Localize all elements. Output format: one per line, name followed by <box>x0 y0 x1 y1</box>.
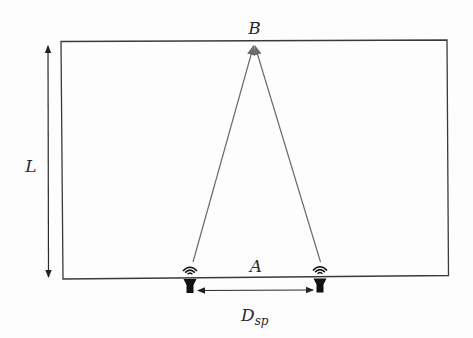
left-speaker-icon <box>183 267 197 293</box>
label-speaker-distance-main: D <box>240 305 255 325</box>
sound-path-right <box>255 46 321 262</box>
room-outline <box>61 40 449 279</box>
label-point-a: A <box>248 256 262 276</box>
diagram-canvas: B A L Dsp <box>0 0 473 338</box>
label-point-b: B <box>247 18 261 38</box>
label-speaker-distance-subscript: sp <box>255 314 269 328</box>
sound-path-left <box>193 46 254 262</box>
sound-paths <box>193 46 321 262</box>
right-speaker-icon <box>313 267 327 293</box>
length-dimension-arrow <box>48 46 49 277</box>
label-speaker-distance: Dsp <box>240 305 269 328</box>
label-room-length: L <box>24 156 36 176</box>
diagram-svg: B A L Dsp <box>0 0 473 338</box>
speaker-distance-arrow <box>198 290 313 291</box>
